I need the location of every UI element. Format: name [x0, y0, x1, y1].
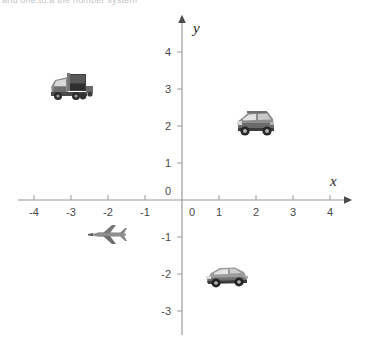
- y-tick-label--2: -2: [161, 268, 171, 280]
- x-tick-label-4: 4: [327, 206, 333, 218]
- y-tick-label--1: -1: [161, 231, 171, 243]
- semi-truck-icon: [45, 67, 97, 107]
- y-tick-label--3: -3: [161, 305, 171, 317]
- sports-car-icon: [202, 261, 252, 291]
- x-tick-label-1: 1: [216, 206, 222, 218]
- x-tick-label--1: -1: [140, 206, 150, 218]
- y-tick-label-0: 0: [165, 185, 171, 197]
- x-tick-label--4: -4: [29, 206, 39, 218]
- y-tick-label-2: 2: [165, 120, 171, 132]
- airplane-icon: [85, 222, 131, 248]
- y-axis-label: y: [191, 20, 200, 36]
- data-point-suv: [232, 107, 280, 145]
- data-point-semi-truck: [45, 67, 97, 111]
- x-tick-label-0: 0: [189, 206, 195, 218]
- suv-icon: [232, 107, 280, 141]
- x-tick-label-2: 2: [253, 206, 259, 218]
- coordinate-plane-figure: and one.to.a the number system: [0, 0, 372, 353]
- y-tick-label-3: 3: [165, 83, 171, 95]
- data-point-sports-car: [202, 261, 252, 295]
- axes-svg: -4 -3 -2 -1 0 1 2 3 4 0 1 2 3 4 -1 -2 -3…: [0, 0, 372, 353]
- y-tick-label-4: 4: [165, 46, 171, 58]
- y-tick-label-1: 1: [165, 157, 171, 169]
- x-tick-label--2: -2: [103, 206, 113, 218]
- data-point-airplane: [85, 222, 131, 252]
- y-axis-ticks: [177, 52, 182, 311]
- x-axis-label: x: [329, 173, 337, 189]
- x-tick-label-3: 3: [290, 206, 296, 218]
- x-tick-label--3: -3: [66, 206, 76, 218]
